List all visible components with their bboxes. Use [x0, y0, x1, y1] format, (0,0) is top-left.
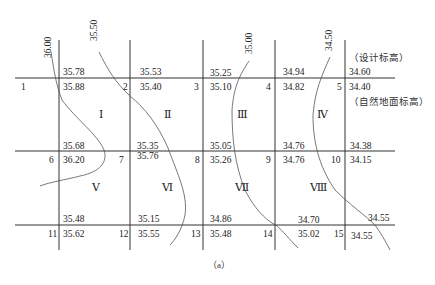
node-13-design: 34.86: [210, 214, 231, 224]
node-id-1: 1: [21, 82, 26, 92]
cell-label-5: Ⅴ: [92, 181, 100, 194]
node-6-natural: 36.20: [63, 155, 84, 165]
node-11-design: 35.48: [63, 214, 84, 224]
legend-design-elevation: （设计标高）: [349, 50, 409, 64]
node-4-natural: 34.82: [283, 82, 304, 92]
node-id-12: 12: [119, 229, 129, 239]
node-id-11: 11: [48, 229, 57, 239]
node-13-natural: 35.48: [210, 229, 231, 239]
node-5-natural: 34.40: [349, 82, 370, 92]
node-id-4: 4: [266, 82, 271, 92]
contour-label-36-00: 36.00: [43, 37, 53, 58]
node-14-design: 34.70: [298, 215, 319, 225]
node-3-natural: 35.10: [210, 82, 231, 92]
node-10-natural: 34.15: [350, 155, 371, 165]
contour-label-34-50: 34.50: [324, 30, 334, 51]
cell-label-4: Ⅳ: [317, 108, 328, 121]
node-10-design: 34.38: [350, 141, 371, 151]
node-2-natural: 35.40: [140, 82, 161, 92]
node-6-design: 35.68: [63, 141, 84, 151]
contour-label-35-50: 35.50: [89, 20, 99, 41]
node-id-13: 13: [191, 229, 201, 239]
node-4-design: 34.94: [283, 67, 304, 77]
node-1-design: 35.78: [63, 67, 84, 77]
node-14-natural: 35.02: [298, 229, 319, 239]
cell-label-3: Ⅲ: [237, 108, 248, 121]
node-id-14: 14: [263, 229, 273, 239]
node-12-natural: 35.55: [138, 229, 159, 239]
node-id-8: 8: [195, 155, 200, 165]
node-12-design: 35.15: [138, 214, 159, 224]
cell-label-8: Ⅷ: [310, 181, 327, 194]
node-id-6: 6: [49, 155, 54, 165]
node-8-natural: 35.26: [210, 155, 231, 165]
node-8-design: 35.05: [210, 141, 231, 151]
node-15-design: 34.55: [368, 213, 389, 223]
cell-label-2: Ⅱ: [164, 108, 171, 121]
node-id-10: 10: [331, 155, 341, 165]
node-id-3: 3: [194, 82, 199, 92]
node-id-7: 7: [119, 155, 124, 165]
cell-label-7: Ⅶ: [235, 181, 249, 194]
node-id-2: 2: [123, 82, 128, 92]
node-11-natural: 35.62: [63, 229, 84, 239]
cell-label-1: Ⅰ: [99, 108, 103, 121]
node-id-5: 5: [337, 82, 342, 92]
cell-label-6: Ⅵ: [162, 181, 173, 194]
node-7-design: 35.35: [137, 141, 158, 151]
node-9-design: 34.76: [283, 141, 304, 151]
node-5-design: 34.60: [349, 67, 370, 77]
contour-label-35-00: 35.00: [244, 33, 254, 54]
figure-caption: （a）: [208, 258, 230, 271]
node-15-natural: 34.55: [351, 231, 372, 241]
node-id-9: 9: [266, 155, 271, 165]
node-7-natural: 35.76: [137, 151, 158, 161]
legend-natural-elevation: （自然地面标高）: [349, 94, 429, 108]
node-2-design: 35.53: [140, 67, 161, 77]
node-9-natural: 34.76: [283, 155, 304, 165]
node-3-design: 35.25: [210, 68, 231, 78]
node-id-15: 15: [334, 229, 344, 239]
node-1-natural: 35.88: [63, 82, 84, 92]
